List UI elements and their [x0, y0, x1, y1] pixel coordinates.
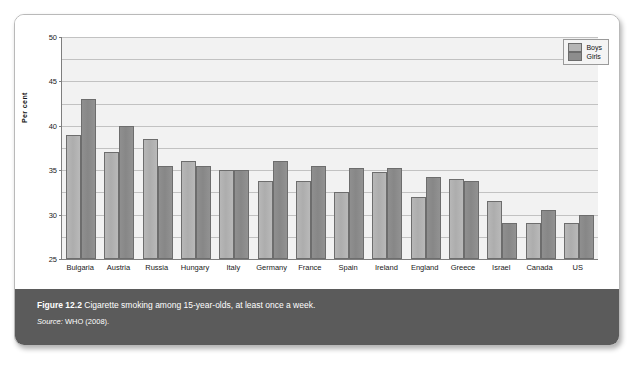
x-axis-label-spain: Spain — [329, 263, 367, 272]
bar-russia-girls — [158, 166, 173, 259]
bar-england-boys — [411, 197, 426, 259]
bar-group — [483, 37, 521, 259]
bar-italy-girls — [234, 170, 249, 259]
legend-label-boys: Boys — [586, 44, 602, 51]
chart-legend: Boys Girls — [563, 39, 609, 65]
x-axis-label-germany: Germany — [252, 263, 290, 272]
y-axis-tick-mark — [59, 259, 62, 260]
bar-group — [407, 37, 445, 259]
x-axis-label-ireland: Ireland — [367, 263, 405, 272]
figure-card: Per cent 05101520253035404550 BulgariaAu… — [14, 14, 620, 346]
x-axis-label-canada: Canada — [520, 263, 558, 272]
bar-greece-girls — [464, 181, 479, 259]
x-axis-label-england: England — [406, 263, 444, 272]
figure-source: Source: WHO (2008). — [37, 317, 109, 326]
source-label: Source: — [37, 317, 63, 326]
y-axis-tick-label: 40 — [49, 121, 57, 130]
x-axis-label-us: US — [559, 263, 597, 272]
figure-caption: Figure 12.2 Cigarette smoking among 15-y… — [37, 300, 315, 310]
y-axis-tick-label: 45 — [49, 77, 57, 86]
bar-hungary-boys — [181, 161, 196, 259]
plot-area: 05101520253035404550 — [61, 37, 598, 260]
figure-page: Per cent 05101520253035404550 BulgariaAu… — [0, 0, 636, 372]
bar-canada-boys — [526, 223, 541, 259]
x-axis-label-austria: Austria — [99, 263, 137, 272]
bar-canada-girls — [541, 210, 556, 259]
x-axis-label-hungary: Hungary — [176, 263, 214, 272]
bar-group — [521, 37, 559, 259]
y-axis-tick-label: 50 — [49, 33, 57, 42]
bar-group — [330, 37, 368, 259]
bar-austria-boys — [104, 152, 119, 259]
bar-ireland-boys — [372, 172, 387, 259]
figure-footer: Figure 12.2 Cigarette smoking among 15-y… — [15, 289, 619, 345]
bar-england-girls — [426, 177, 441, 259]
legend-swatch-girls — [568, 52, 582, 61]
x-axis-label-russia: Russia — [138, 263, 176, 272]
bar-group — [292, 37, 330, 259]
legend-item-boys: Boys — [568, 43, 602, 52]
bar-ireland-girls — [387, 168, 402, 259]
bar-france-girls — [311, 166, 326, 259]
bar-series-container — [62, 37, 598, 259]
bar-spain-boys — [334, 192, 349, 259]
bar-israel-girls — [502, 223, 517, 259]
chart-region: Per cent 05101520253035404550 BulgariaAu… — [15, 15, 619, 289]
bar-group — [560, 37, 598, 259]
legend-swatch-boys — [568, 43, 582, 52]
bar-group — [253, 37, 291, 259]
x-axis-label-greece: Greece — [444, 263, 482, 272]
bar-group — [215, 37, 253, 259]
x-axis-label-bulgaria: Bulgaria — [61, 263, 99, 272]
y-axis-tick-label: 30 — [49, 210, 57, 219]
x-axis-label-france: France — [291, 263, 329, 272]
bar-bulgaria-boys — [66, 135, 81, 259]
bar-france-boys — [296, 181, 311, 259]
gridline: 0 — [62, 259, 598, 260]
bar-israel-boys — [487, 201, 502, 259]
y-axis-tick-label: 35 — [49, 166, 57, 175]
x-axis-label-israel: Israel — [482, 263, 520, 272]
bar-greece-boys — [449, 179, 464, 259]
bar-germany-girls — [273, 161, 288, 259]
bar-group — [177, 37, 215, 259]
x-axis-tick-labels: BulgariaAustriaRussiaHungaryItalyGermany… — [61, 263, 597, 272]
figure-caption-text: Cigarette smoking among 15-year-olds, at… — [84, 300, 315, 310]
bar-group — [445, 37, 483, 259]
bar-germany-boys — [258, 181, 273, 259]
bar-group — [100, 37, 138, 259]
bar-hungary-girls — [196, 166, 211, 259]
legend-label-girls: Girls — [586, 53, 600, 60]
bar-russia-boys — [143, 139, 158, 259]
bar-group — [139, 37, 177, 259]
bar-us-boys — [564, 223, 579, 259]
bar-austria-girls — [119, 126, 134, 259]
legend-item-girls: Girls — [568, 52, 602, 61]
bar-spain-girls — [349, 168, 364, 259]
bar-italy-boys — [219, 170, 234, 259]
bar-group — [368, 37, 406, 259]
source-text: WHO (2008). — [65, 317, 109, 326]
figure-number: Figure 12.2 — [37, 300, 82, 310]
y-axis-tick-label: 25 — [49, 255, 57, 264]
y-axis-label: Per cent — [21, 92, 28, 123]
bar-group — [62, 37, 100, 259]
bar-us-girls — [579, 215, 594, 259]
x-axis-label-italy: Italy — [214, 263, 252, 272]
bar-bulgaria-girls — [81, 99, 96, 259]
